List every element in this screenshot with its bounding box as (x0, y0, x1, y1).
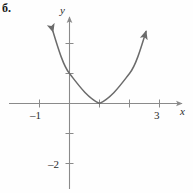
x-axis-label: x (180, 106, 185, 117)
parabola-figure: б. y x –1 3 –2 (0, 0, 193, 193)
parabola-curve (53, 32, 146, 104)
plot-canvas (0, 0, 193, 193)
y-tick-label-negative-two: –2 (48, 159, 59, 170)
y-axis-label: y (60, 5, 65, 16)
x-tick-label-negative-one: –1 (30, 110, 41, 121)
x-tick-label-three: 3 (154, 110, 160, 121)
item-number-label: б. (2, 2, 11, 14)
